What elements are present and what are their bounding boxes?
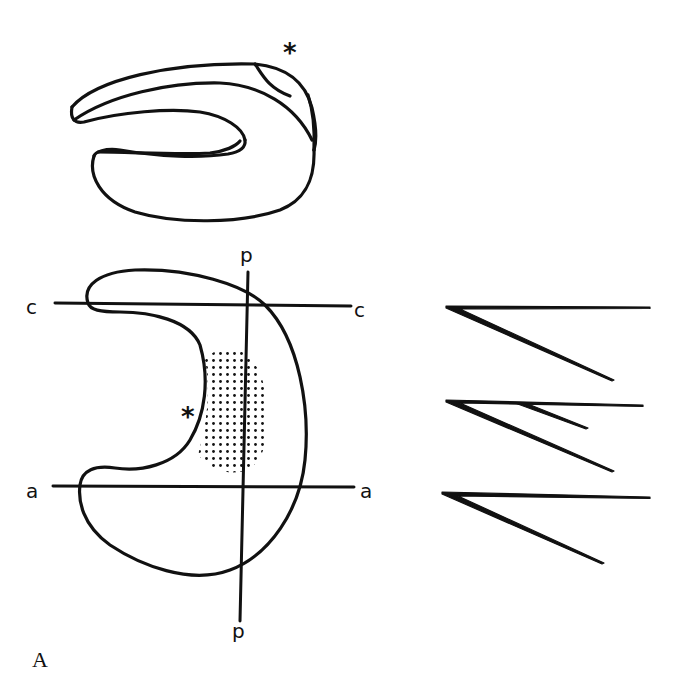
line-a [53,486,354,487]
line-c [55,303,351,306]
panel-label: A [32,647,48,672]
profile-a [442,492,650,564]
figure-canvas: * c c a a p p * A [0,0,680,698]
label-c-right: c [354,298,365,322]
top-crescent-drawing [72,64,316,221]
profile-c [446,306,650,381]
label-c-left: c [26,295,37,319]
top-asterisk-marker: * [283,38,297,68]
stippled-region [198,349,268,472]
label-a-left: a [26,479,38,503]
bottom-asterisk-marker: * [181,402,195,432]
label-p-bottom: p [232,619,245,643]
label-p-top: p [240,243,253,267]
label-a-right: a [360,479,372,503]
section-profiles [442,306,650,564]
profile-p [446,400,643,472]
